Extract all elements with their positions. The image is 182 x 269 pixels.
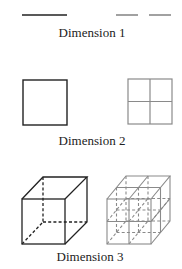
dimension-2-split-square: [128, 79, 172, 124]
dimension-1-label-text: Dimension 1: [59, 25, 126, 40]
dimension-1-label: Dimension 1: [0, 25, 182, 40]
dimension-2-label-text: Dimension 2: [59, 133, 126, 148]
dimension-2-whole-square: [23, 80, 67, 125]
dimension-3-split-cube: [107, 176, 170, 244]
dimension-3-label: Dimension 3: [0, 249, 182, 264]
dimension-2-label: Dimension 2: [0, 133, 182, 148]
dimension-3-label-text: Dimension 3: [57, 249, 124, 264]
dimension-3-whole-cube: [22, 177, 87, 244]
